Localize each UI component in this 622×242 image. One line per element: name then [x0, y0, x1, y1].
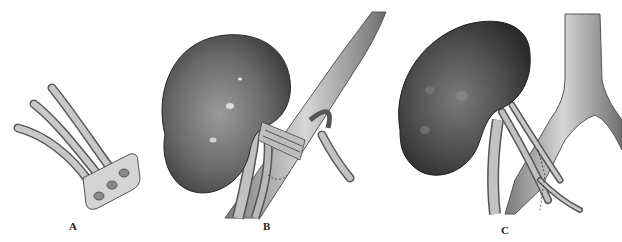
panel-a: A — [0, 0, 150, 242]
kidney-anastomosis-b-illustration — [150, 0, 390, 242]
panel-label-c: C — [501, 224, 509, 236]
panel-label-b: B — [263, 220, 270, 232]
panel-b: B — [150, 0, 390, 242]
panel-label-a: A — [69, 220, 77, 232]
kidney-anastomosis-c-illustration — [390, 0, 622, 242]
panel-c: C — [390, 0, 622, 242]
vascular-patch-illustration — [0, 0, 150, 242]
